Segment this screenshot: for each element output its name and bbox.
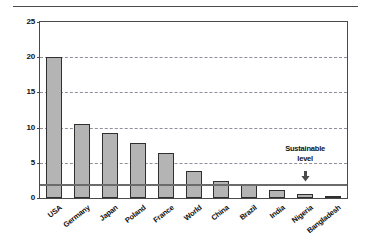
- bar-bangladesh: [325, 196, 341, 198]
- bar-india: [269, 190, 285, 198]
- x-axis-labels: USAGermanyJapanPolandFranceWorldChinaBra…: [39, 200, 348, 249]
- y-axis-tick-mark-15: [37, 92, 40, 93]
- gridline-15: [40, 92, 347, 93]
- x-axis-tick-label-france: France: [151, 203, 175, 225]
- bar-france: [158, 153, 174, 198]
- x-axis-tick-label-japan: Japan: [97, 203, 119, 223]
- y-axis-tick-label-10: 10: [27, 124, 36, 132]
- figure-container: 0510152025Sustainablelevel USAGermanyJap…: [0, 0, 370, 249]
- sustainable-level-line: [40, 184, 347, 186]
- y-axis-tick-label-25: 25: [27, 18, 36, 26]
- x-axis-tick-label-world: World: [182, 203, 203, 222]
- x-axis-tick-label-germany: Germany: [61, 203, 91, 229]
- bar-japan: [102, 133, 118, 198]
- x-axis-tick-label-brazil: Brazil: [238, 203, 259, 222]
- y-axis-tick-label-0: 0: [31, 194, 35, 202]
- plot-area: 0510152025Sustainablelevel: [39, 21, 348, 199]
- y-axis-tick-mark-5: [37, 163, 40, 164]
- gridline-20: [40, 57, 347, 58]
- bar-germany: [74, 124, 90, 198]
- x-axis-tick-label-poland: Poland: [123, 203, 147, 225]
- plot-inner: 0510152025Sustainablelevel: [40, 22, 347, 198]
- annotation-line-1: Sustainable: [285, 144, 325, 153]
- top-horizontal-rule: [13, 6, 358, 7]
- annotation-line-2: level: [275, 154, 335, 164]
- sustainable-level-annotation: Sustainablelevel: [275, 144, 335, 164]
- bar-usa: [46, 57, 62, 198]
- y-axis-tick-mark-10: [37, 128, 40, 129]
- y-axis-tick-label-15: 15: [27, 88, 36, 96]
- bar-brazil: [241, 185, 257, 198]
- y-axis-tick-mark-0: [37, 198, 40, 199]
- y-axis-tick-label-5: 5: [31, 159, 35, 167]
- x-axis-tick-label-usa: USA: [46, 203, 64, 219]
- y-axis-tick-mark-25: [37, 22, 40, 23]
- bar-poland: [130, 143, 146, 198]
- y-axis-tick-mark-20: [37, 57, 40, 58]
- y-axis-tick-label-20: 20: [27, 53, 36, 61]
- x-axis-tick-label-china: China: [210, 203, 231, 222]
- x-axis-tick-label-india: India: [268, 203, 287, 220]
- bar-nigeria: [297, 194, 313, 198]
- down-arrow-icon: [301, 168, 310, 179]
